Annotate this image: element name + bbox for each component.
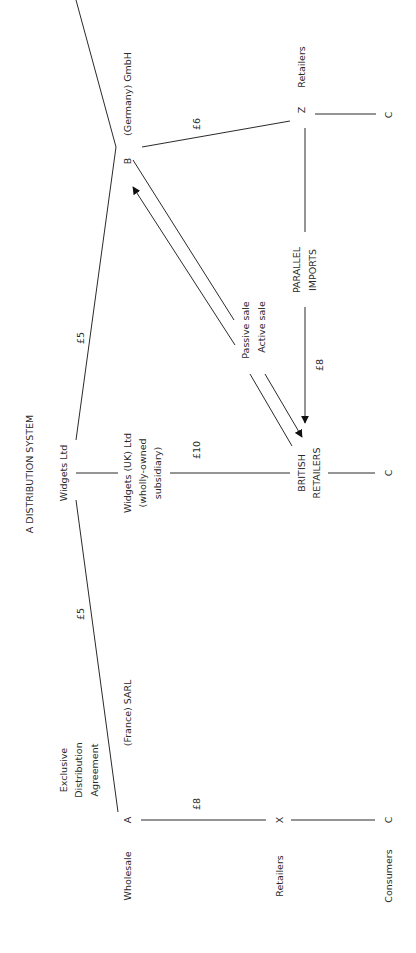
exclusive-label: Exclusive: [58, 748, 69, 793]
retailers-right-label: Retailers: [296, 46, 307, 88]
price-uk-british: £10: [191, 441, 202, 459]
germany-letter: B: [122, 158, 133, 165]
consumers-label: Consumers: [383, 849, 394, 902]
line-widgets-to-germany: [76, 0, 116, 147]
british-retailers-label: BRITISH: [296, 454, 307, 492]
france-label: (France) SARL: [122, 679, 133, 746]
consumer-c-france: C: [383, 816, 394, 823]
wholesale-label: Wholesale: [122, 851, 133, 900]
line-germany-to-z: [142, 121, 290, 147]
uk-subsidiary-label-2: (wholly-owned: [137, 438, 148, 507]
parallel-label: PARALLEL: [291, 246, 302, 293]
exclusive-label-2: Distribution: [73, 742, 84, 797]
line-widgets-to-germany: [76, 147, 116, 440]
price-france-x: £8: [191, 798, 202, 810]
british-retailers-label-2: RETAILERS: [311, 448, 322, 499]
price-parallel: £8: [314, 359, 325, 371]
consumer-c-z: C: [383, 111, 394, 118]
retailer-x: X: [274, 816, 285, 823]
retailer-z: Z: [296, 106, 307, 113]
distribution-diagram: A DISTRIBUTION SYSTEM Widgets Ltd £5 £5 …: [0, 0, 416, 953]
consumer-c-british: C: [383, 469, 394, 476]
passive-sale-label: Passive sale: [240, 301, 251, 359]
active-sale-line: [133, 160, 234, 320]
active-sale-label: Active sale: [256, 301, 267, 353]
retailers-left-label: Retailers: [274, 855, 285, 897]
active-sale-arrow: [265, 374, 302, 437]
uk-subsidiary-label-3: subsidiary): [152, 447, 163, 499]
germany-label: (Germany) GmbH: [122, 52, 133, 136]
exclusive-label-3: Agreement: [89, 743, 100, 796]
diagram-title: A DISTRIBUTION SYSTEM: [24, 415, 35, 533]
price-widgets-germany: £5: [75, 332, 86, 344]
price-widgets-france: £5: [75, 608, 86, 620]
price-germany-z: £6: [191, 118, 202, 130]
parallel-label-2: IMPORTS: [307, 249, 318, 291]
passive-sale-arrow: [133, 187, 235, 345]
uk-subsidiary-label: Widgets (UK) Ltd: [122, 433, 133, 513]
france-letter: A: [122, 816, 133, 823]
widgets-ltd-label: Widgets Ltd: [58, 445, 69, 501]
